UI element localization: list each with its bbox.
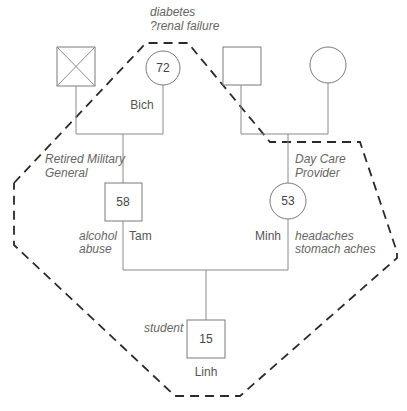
name-label: Tam — [129, 229, 152, 243]
maternal-grandmother — [310, 47, 346, 83]
name-label: Bich — [130, 98, 153, 112]
occupation-note: General — [45, 166, 88, 180]
paternal-grandfather — [57, 47, 95, 86]
genogram-diagram: 72 Bich diabetes ?renal failure 58 Tam R… — [0, 0, 407, 411]
health-note: diabetes — [150, 5, 195, 19]
age-label: 58 — [116, 195, 130, 209]
child: 15 Linh student — [144, 320, 225, 379]
paternal-grandmother: 72 Bich diabetes ?renal failure — [130, 5, 219, 112]
occupation-note: Day Care — [295, 152, 346, 166]
father: 58 Tam Retired Military General alcohol … — [45, 152, 152, 256]
maternal-grandfather — [223, 47, 261, 85]
health-note: headaches — [295, 229, 354, 243]
name-label: Minh — [255, 229, 281, 243]
mother: 53 Minh Day Care Provider headaches stom… — [255, 152, 376, 256]
occupation-note: Provider — [295, 166, 341, 180]
health-note: stomach aches — [295, 242, 376, 256]
age-label: 15 — [199, 332, 213, 346]
age-label: 72 — [156, 61, 170, 75]
health-note: abuse — [79, 242, 112, 256]
age-label: 53 — [281, 194, 295, 208]
occupation-note: Retired Military — [45, 152, 126, 166]
occupation-note: student — [144, 321, 184, 335]
name-label: Linh — [195, 365, 218, 379]
health-note: ?renal failure — [150, 19, 220, 33]
health-note: alcohol — [79, 229, 117, 243]
